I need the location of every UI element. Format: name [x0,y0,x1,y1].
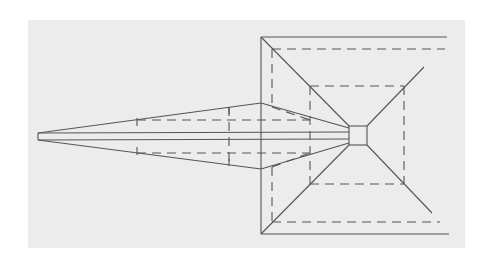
outer-frame [261,37,449,234]
diagonals [261,37,432,234]
perspective-diagram [0,0,486,253]
center-square [349,126,367,145]
wedge [38,103,349,169]
